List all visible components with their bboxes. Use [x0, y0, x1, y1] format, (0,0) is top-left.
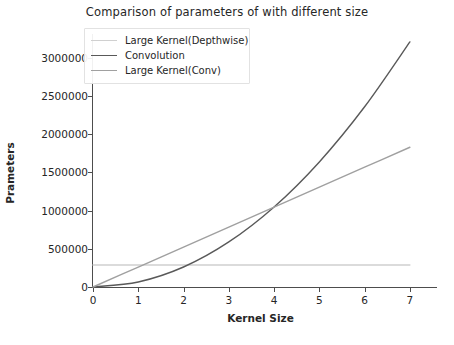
y-tick-mark: [88, 249, 92, 250]
y-tick-label: 0: [12, 282, 88, 292]
y-tick-label: 1500000: [12, 167, 88, 177]
series-line: [93, 147, 410, 287]
x-tick-mark: [93, 288, 94, 292]
chart-figure: Comparison of parameters of with differe…: [0, 0, 454, 345]
x-tick-mark: [319, 288, 320, 292]
x-axis-label: Kernel Size: [93, 312, 428, 324]
legend-color-swatch: [91, 50, 117, 61]
legend-item[interactable]: Large Kernel(Conv): [91, 63, 243, 78]
x-tick-label: 3: [217, 294, 241, 306]
x-tick-label: 5: [307, 294, 331, 306]
x-tick-mark: [138, 288, 139, 292]
legend-item[interactable]: Large Kernel(Depthwise): [91, 33, 243, 48]
y-tick-mark: [88, 134, 92, 135]
x-tick-mark: [410, 288, 411, 292]
y-tick-mark: [88, 287, 92, 288]
y-axis-label-text: Prameters: [4, 142, 16, 204]
x-tick-label: 4: [262, 294, 286, 306]
x-tick-label: 2: [172, 294, 196, 306]
x-tick-label: 6: [353, 294, 377, 306]
y-tick-mark: [88, 96, 92, 97]
legend-color-swatch: [91, 35, 117, 46]
x-tick-mark: [184, 288, 185, 292]
legend-item-label: Convolution: [117, 50, 185, 61]
legend-item-label: Large Kernel(Depthwise): [117, 35, 248, 46]
x-tick-label: 0: [81, 294, 105, 306]
x-axis-spine: [92, 287, 437, 288]
y-axis-label: Prameters: [2, 0, 18, 345]
y-tick-mark: [88, 172, 92, 173]
x-tick-mark: [274, 288, 275, 292]
y-tick-label: 2000000: [12, 129, 88, 139]
y-tick-mark: [88, 211, 92, 212]
legend-item[interactable]: Convolution: [91, 48, 243, 63]
x-tick-mark: [365, 288, 366, 292]
legend-item-label: Large Kernel(Conv): [117, 65, 221, 76]
y-tick-label: 2500000: [12, 91, 88, 101]
y-tick-label: 1000000: [12, 206, 88, 216]
y-tick-label: 500000: [12, 244, 88, 254]
x-tick-mark: [229, 288, 230, 292]
chart-title: Comparison of parameters of with differe…: [0, 5, 454, 19]
legend-color-swatch: [91, 65, 117, 76]
x-tick-label: 1: [126, 294, 150, 306]
y-tick-label: 3000000: [12, 53, 88, 63]
x-tick-label: 7: [398, 294, 422, 306]
chart-legend: Large Kernel(Depthwise)ConvolutionLarge …: [84, 28, 250, 84]
